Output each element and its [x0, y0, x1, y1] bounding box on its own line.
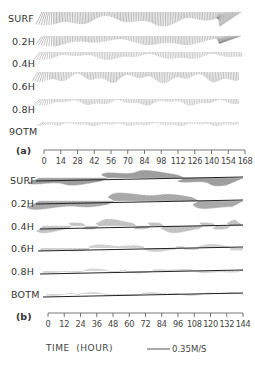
vector-stick	[84, 270, 85, 271]
vector-stick	[77, 52, 78, 56]
vector-stick	[52, 271, 53, 273]
vector-stick	[170, 99, 171, 102]
vector-stick	[64, 52, 65, 55]
vector-stick	[174, 12, 175, 24]
stick-plot-figure: SURF 0.2H 0.4H 0.6H 0.8H 9OTM (a) 014284…	[0, 0, 255, 371]
vector-stick	[161, 293, 162, 294]
vector-stick	[110, 271, 111, 272]
vector-stick	[125, 36, 126, 40]
vector-stick	[220, 271, 221, 272]
vector-stick	[184, 99, 185, 104]
vector-stick	[94, 12, 95, 20]
vector-stick	[82, 271, 83, 272]
vector-stick	[65, 271, 66, 272]
vector-stick	[106, 245, 109, 248]
vector-stick	[203, 122, 204, 124]
vector-stick	[218, 72, 219, 81]
vector-stick	[159, 12, 160, 26]
vector-stick	[93, 99, 94, 104]
vector-stick	[112, 122, 113, 125]
vector-stick	[126, 12, 127, 22]
vector-stick	[186, 122, 187, 125]
vector-stick	[46, 12, 48, 25]
vector-stick	[130, 223, 135, 226]
vector-stick	[155, 52, 156, 55]
vector-stick	[96, 99, 97, 104]
vector-stick	[144, 293, 145, 294]
vector-stick	[146, 12, 147, 21]
vector-stick	[80, 52, 81, 56]
vector-stick	[96, 269, 97, 271]
vector-stick	[80, 271, 81, 272]
vector-stick	[235, 72, 236, 81]
vector-stick	[220, 122, 221, 126]
vector-stick	[64, 36, 65, 44]
vector-stick	[89, 292, 90, 294]
vector-stick	[91, 269, 92, 271]
vector-stick	[97, 292, 98, 294]
vector-stick	[79, 36, 80, 42]
vector-stick	[57, 294, 58, 296]
vector-stick	[122, 72, 123, 77]
vector-stick	[125, 52, 126, 57]
vector-stick	[76, 72, 77, 74]
vector-stick	[192, 12, 193, 18]
vector-stick	[160, 293, 161, 294]
vector-stick	[51, 294, 52, 296]
vector-stick	[81, 12, 82, 24]
vector-stick	[90, 269, 91, 271]
vector-stick	[119, 271, 120, 272]
vector-stick	[220, 99, 221, 100]
vector-stick	[123, 99, 124, 102]
vector-stick	[62, 52, 63, 55]
vector-stick	[78, 271, 79, 273]
stick-plot-graphics	[0, 0, 255, 371]
vector-stick	[211, 271, 212, 273]
vector-stick	[171, 270, 172, 271]
vector-stick	[218, 271, 219, 272]
vector-stick	[59, 294, 60, 295]
vector-stick	[96, 12, 97, 19]
vector-stick	[61, 72, 62, 81]
vector-stick	[206, 52, 207, 55]
vector-stick	[153, 270, 154, 271]
vector-stick	[60, 271, 61, 272]
vector-stick	[219, 271, 220, 272]
vector-stick	[97, 122, 98, 126]
vector-stick	[174, 122, 175, 125]
vector-stick	[191, 52, 192, 59]
vector-stick	[146, 36, 147, 45]
vector-stick	[62, 99, 63, 102]
vector-stick	[159, 293, 160, 294]
vector-stick	[141, 122, 142, 125]
vector-stick	[160, 52, 161, 57]
vector-stick	[106, 294, 107, 295]
vector-stick	[103, 269, 104, 271]
vector-stick	[109, 99, 110, 103]
vector-stick	[203, 99, 204, 103]
vector-stick	[141, 52, 142, 56]
vector-stick	[82, 12, 83, 24]
vector-stick	[143, 122, 144, 125]
vector-stick	[227, 271, 228, 272]
vector-stick	[74, 271, 75, 273]
vector-stick	[130, 36, 131, 41]
vector-stick	[189, 99, 190, 105]
vector-stick	[204, 36, 205, 41]
vector-stick	[154, 270, 155, 271]
vector-stick	[65, 99, 66, 102]
vector-stick	[65, 52, 66, 55]
vector-stick	[44, 36, 47, 46]
vector-stick	[235, 99, 236, 104]
vector-stick	[107, 72, 108, 81]
vector-stick	[62, 12, 63, 22]
vector-stick	[60, 72, 61, 81]
vector-stick	[152, 223, 157, 226]
vector-stick	[100, 269, 101, 271]
vector-stick	[44, 12, 47, 25]
vector-stick	[208, 271, 209, 273]
vector-stick	[164, 269, 165, 271]
vector-stick	[126, 99, 127, 103]
vector-stick	[158, 122, 159, 124]
vector-stick	[63, 271, 64, 272]
